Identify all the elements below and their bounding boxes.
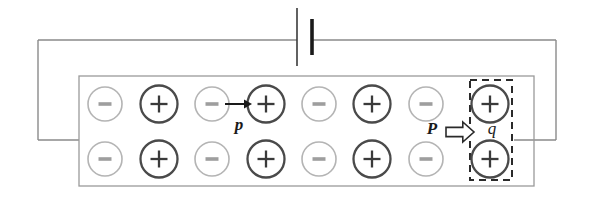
figure-canvas: pPq [0,0,592,201]
label-charge-q: q [488,119,497,138]
label-polarization-P: P [426,119,438,138]
polarization-block-arrow [446,122,474,142]
circuit-diagram-svg: pPq [0,0,592,201]
label-momentum-p: p [233,115,244,134]
